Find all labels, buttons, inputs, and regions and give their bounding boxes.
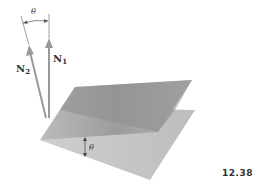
theta-label-planes: θ bbox=[89, 143, 94, 152]
n1-label: N1 bbox=[53, 53, 67, 66]
normal-vector-n1 bbox=[45, 38, 53, 118]
figure-number: 12.38 bbox=[222, 168, 253, 178]
intersecting-planes-diagram: θ θ N1 N2 bbox=[0, 0, 267, 191]
n2-label: N2 bbox=[16, 63, 30, 76]
normal-vector-n2 bbox=[26, 45, 46, 118]
theta-label-top: θ bbox=[31, 7, 36, 16]
